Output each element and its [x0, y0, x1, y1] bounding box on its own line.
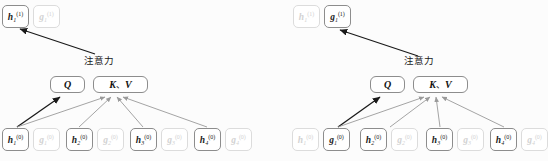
- input-node-h1[interactable]: h1(0): [292, 128, 319, 151]
- symbol-h4-in: h4(0): [496, 134, 511, 146]
- query-label: Q: [384, 79, 391, 90]
- input-node-h4[interactable]: h4(0): [194, 128, 221, 151]
- symbol-h1-in: h1(0): [8, 134, 23, 146]
- symbol-h4-in: h4(0): [200, 134, 215, 146]
- arrow-kv-from-h4: [442, 97, 504, 127]
- symbol-g1-out: g1(1): [330, 11, 345, 23]
- kv-comma: 、: [436, 78, 445, 91]
- arrow-kv-from-h1: [17, 97, 105, 127]
- input-node-g3[interactable]: g3(0): [457, 128, 484, 151]
- value-label: V: [445, 79, 452, 90]
- symbol-g1-out: g1(1): [39, 11, 54, 23]
- arrow-query-from-h1: [17, 97, 60, 127]
- output-node-g1[interactable]: g1(1): [324, 5, 351, 28]
- kv-comma: 、: [116, 78, 125, 91]
- input-node-g3[interactable]: g3(0): [161, 128, 188, 151]
- attention-panel-g: h1(1) g1(1) 注意力 Q K、V h1(0) g1(0): [268, 0, 535, 161]
- key-value-box[interactable]: K、V: [413, 76, 468, 93]
- symbol-h1-out: h1(1): [8, 11, 23, 23]
- arrow-kv-from-h2: [390, 97, 430, 127]
- symbol-h3-in: h3(0): [432, 134, 447, 146]
- input-node-g2[interactable]: g2(0): [391, 128, 418, 151]
- symbol-g3-in: g3(0): [167, 134, 182, 146]
- value-label: V: [125, 79, 132, 90]
- arrow-kv-from-h2: [79, 97, 111, 127]
- input-node-h4[interactable]: h4(0): [490, 128, 517, 151]
- symbol-g1-in: g1(0): [329, 134, 344, 146]
- key-label: K: [429, 79, 436, 90]
- input-node-h3[interactable]: h3(0): [130, 128, 157, 151]
- symbol-g1-in: g1(0): [39, 134, 54, 146]
- input-node-g4[interactable]: g4(0): [225, 128, 252, 151]
- key-label: K: [109, 79, 116, 90]
- input-node-h2[interactable]: h2(0): [360, 128, 387, 151]
- arrow-kv-from-h3: [117, 97, 143, 127]
- input-node-h1[interactable]: h1(0): [2, 128, 29, 151]
- key-value-box[interactable]: K、V: [93, 76, 148, 93]
- input-node-g1[interactable]: g1(0): [323, 128, 350, 151]
- query-box[interactable]: Q: [370, 76, 405, 93]
- input-node-h3[interactable]: h3(0): [426, 128, 453, 151]
- arrow-kv-from-g1: [338, 97, 424, 127]
- input-node-g1[interactable]: g1(0): [33, 128, 60, 151]
- input-node-g2[interactable]: g2(0): [97, 128, 124, 151]
- symbol-g2-in: g2(0): [397, 134, 412, 146]
- output-node-h1[interactable]: h1(1): [2, 5, 29, 28]
- output-node-h1[interactable]: h1(1): [293, 5, 320, 28]
- input-node-h2[interactable]: h2(0): [66, 128, 93, 151]
- attention-label: 注意力: [404, 53, 434, 67]
- arrow-query-from-g1: [338, 97, 380, 127]
- symbol-h2-in: h2(0): [72, 134, 87, 146]
- attention-panel-h: h1(1) g1(1) 注意力 Q K、V h1(0) g1(0): [0, 0, 267, 161]
- attention-label: 注意力: [84, 53, 114, 67]
- symbol-g2-in: g2(0): [103, 134, 118, 146]
- query-box[interactable]: Q: [50, 76, 85, 93]
- symbol-g3-in: g3(0): [463, 134, 478, 146]
- symbol-g4-in: g4(0): [231, 134, 246, 146]
- input-node-g4[interactable]: g4(0): [521, 128, 548, 151]
- arrow-kv-from-h3: [436, 97, 440, 127]
- symbol-h1-out: h1(1): [299, 11, 314, 23]
- arrow-kv-from-h4: [123, 97, 207, 127]
- output-node-g1[interactable]: g1(1): [33, 5, 60, 28]
- symbol-h1-in: h1(0): [298, 134, 313, 146]
- symbol-h3-in: h3(0): [136, 134, 151, 146]
- arrow-attention-output: [20, 29, 95, 54]
- query-label: Q: [64, 79, 71, 90]
- symbol-g4-in: g4(0): [527, 134, 542, 146]
- symbol-h2-in: h2(0): [366, 134, 381, 146]
